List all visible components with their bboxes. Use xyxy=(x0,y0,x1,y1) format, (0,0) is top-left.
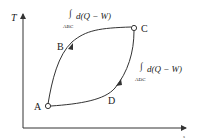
y-axis-label: T xyxy=(11,12,18,23)
point-c-label: C xyxy=(141,23,148,34)
path-adc-arrow-icon xyxy=(116,79,122,86)
point-d-label: D xyxy=(108,95,115,106)
integral-adc-symbol: ∫ xyxy=(139,61,144,72)
ts-diagram: T s A B C D ∫ ABC d(Q − W) ∫ ADC d(Q − W… xyxy=(0,0,201,138)
point-a-marker xyxy=(45,103,50,108)
integral-abc-subscript: ABC xyxy=(63,24,74,29)
x-axis-label: s xyxy=(183,134,185,138)
point-c-marker xyxy=(131,25,136,30)
integral-abc-symbol: ∫ xyxy=(68,8,73,19)
point-a-label: A xyxy=(34,101,42,112)
point-b-label: B xyxy=(57,41,64,52)
integral-adc-subscript: ADC xyxy=(135,77,146,82)
integral-adc-expression: d(Q − W) xyxy=(147,64,182,74)
path-abc-curve xyxy=(48,27,131,104)
integral-abc-expression: d(Q − W) xyxy=(76,11,111,21)
